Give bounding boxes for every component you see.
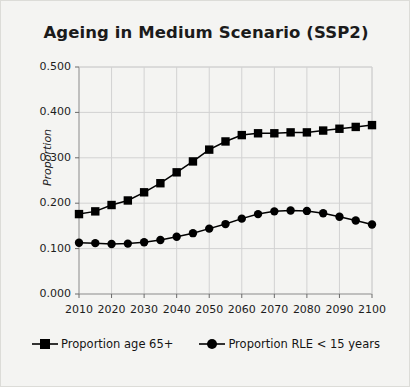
y-tick-label: 0.100: [25, 242, 71, 255]
plot-area: [1, 1, 410, 387]
legend-item-age-65-plus: Proportion age 65+: [32, 337, 173, 351]
y-tick-label: 0.500: [25, 60, 71, 73]
x-tick-label: 2100: [352, 303, 392, 316]
data-series-layer: [75, 121, 376, 248]
legend-item-rle-under-15: Proportion RLE < 15 years: [199, 337, 380, 351]
y-tick-label: 0.200: [25, 196, 71, 209]
y-tick-label: 0.000: [25, 287, 71, 300]
gridlines: [79, 67, 372, 294]
legend-label-rle-under-15: Proportion RLE < 15 years: [228, 337, 380, 351]
y-tick-label: 0.300: [25, 151, 71, 164]
axis-ticks: [75, 67, 372, 298]
chart-figure: Ageing in Medium Scenario (SSP2) Proport…: [0, 0, 410, 387]
legend-marker-circle: [199, 337, 225, 351]
legend-label-age-65-plus: Proportion age 65+: [61, 337, 173, 351]
legend-marker-square: [32, 337, 58, 351]
y-tick-label: 0.400: [25, 105, 71, 118]
axis-lines: [79, 67, 372, 294]
chart-legend: Proportion age 65+ Proportion RLE < 15 y…: [1, 337, 410, 351]
